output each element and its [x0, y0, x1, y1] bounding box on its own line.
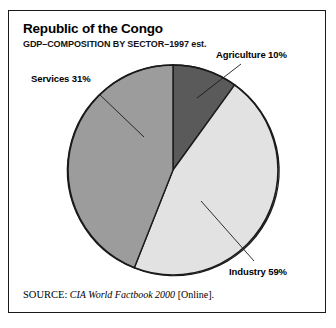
source-title: CIA World Factbook 2000	[70, 289, 175, 300]
pie-label-agriculture: Agriculture 10%	[216, 49, 287, 60]
chart-figure: Republic of the Congo GDP–COMPOSITION BY…	[8, 10, 326, 313]
source-keyword: SOURCE:	[23, 289, 67, 300]
source-suffix: [Online].	[178, 289, 214, 300]
pie-label-industry: Industry 59%	[229, 266, 287, 277]
pie-label-services: Services 31%	[31, 73, 91, 84]
source-note: SOURCE: CIA World Factbook 2000 [Online]…	[23, 289, 214, 300]
